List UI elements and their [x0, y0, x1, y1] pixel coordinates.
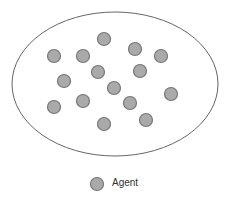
agent-node: [155, 50, 168, 63]
agent-node: [77, 50, 90, 63]
agent-node: [77, 95, 90, 108]
agent-node: [98, 33, 111, 46]
legend-label: Agent: [112, 177, 138, 188]
agent-node: [165, 88, 178, 101]
agent-group: [48, 33, 178, 131]
agent-node: [140, 114, 153, 127]
agent-diagram: [0, 0, 228, 201]
agent-node: [58, 75, 71, 88]
agent-node: [92, 66, 105, 79]
agent-node: [48, 101, 61, 114]
legend-agent-icon: [91, 178, 104, 191]
agent-node: [129, 43, 142, 56]
agent-node: [124, 97, 137, 110]
agent-node: [108, 82, 121, 95]
agent-node: [48, 50, 61, 63]
agent-node: [98, 118, 111, 131]
agent-node: [134, 65, 147, 78]
